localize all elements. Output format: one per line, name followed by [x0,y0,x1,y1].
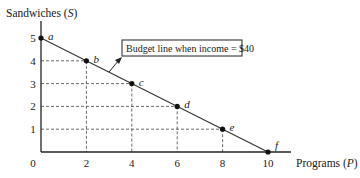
annotation-text: Budget line when income = $40 [126,43,254,54]
x-axis-label: Programs (P) [296,157,358,170]
x-tick-2: 2 [84,157,90,169]
point-d [175,104,180,109]
point-c [129,81,134,86]
point-a [38,35,43,40]
point-label-b: b [93,53,99,65]
point-e [220,127,225,132]
y-tick-4: 4 [30,55,36,67]
y-tick-3: 3 [30,78,36,90]
y-tick-5: 5 [30,32,36,44]
y-tick-2: 2 [30,100,36,112]
point-label-e: e [230,121,235,133]
point-label-c: c [139,76,144,88]
y-axis-label: Sandwiches (S) [6,7,77,20]
point-label-d: d [184,98,190,110]
budget-line-chart: abcdef 246810 12345 0 Sandwiches (S) Pro… [0,0,360,178]
y-tick-labels: 12345 [30,32,36,135]
x-tick-labels: 246810 [84,157,274,169]
x-tick-8: 8 [220,157,226,169]
point-label-f: f [275,139,280,151]
x-tick-10: 10 [263,157,275,169]
point-f [265,149,270,154]
origin-label: 0 [30,157,36,169]
point-label-a: a [48,30,54,42]
dashed-guides [41,61,223,152]
x-tick-4: 4 [129,157,135,169]
point-b [84,58,89,63]
x-tick-6: 6 [174,157,180,169]
y-tick-1: 1 [30,123,36,135]
